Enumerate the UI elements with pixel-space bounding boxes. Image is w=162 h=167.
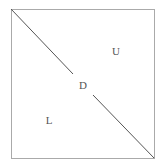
label-upper-triangle: U: [112, 45, 120, 57]
label-diagonal: D: [79, 79, 87, 91]
diagonal-upper-segment: [11, 9, 73, 74]
label-lower-triangle: L: [46, 114, 53, 126]
diagonal-lower-segment: [93, 95, 154, 158]
ldu-matrix-diagram: U D L: [0, 0, 162, 167]
